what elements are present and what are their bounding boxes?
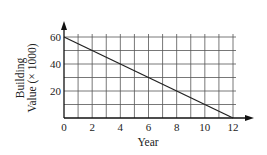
axes — [61, 21, 254, 121]
y-tick-label: 60 — [50, 31, 62, 43]
y-axis-label-line2: Value (× 1000) — [26, 43, 39, 112]
y-tick-label: 40 — [50, 58, 62, 70]
y-tick-labels: 204060 — [50, 31, 62, 97]
x-axis-arrow-icon — [245, 115, 254, 121]
x-tick-labels: 024681012 — [61, 121, 238, 133]
x-tick-label: 12 — [228, 121, 239, 133]
x-tick-label: 0 — [61, 121, 67, 133]
x-tick-label: 4 — [118, 121, 124, 133]
y-axis-arrow-icon — [61, 21, 67, 30]
building-value-chart: 024681012 204060 Year Building Value (× … — [0, 0, 267, 155]
grid-lines — [64, 34, 236, 118]
x-tick-label: 6 — [146, 121, 152, 133]
x-tick-label: 10 — [199, 121, 211, 133]
y-tick-label: 20 — [50, 85, 62, 97]
x-tick-label: 8 — [174, 121, 180, 133]
x-tick-label: 2 — [89, 121, 95, 133]
x-axis-label: Year — [137, 136, 158, 148]
